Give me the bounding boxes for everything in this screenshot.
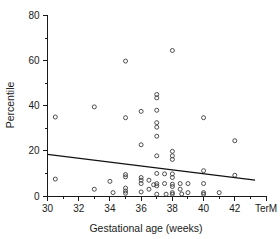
- plot-canvas: 30323436384042TerM020406080 Gestational …: [0, 0, 280, 239]
- data-point: [92, 105, 96, 109]
- major-tick-group: [43, 16, 267, 202]
- data-point: [147, 187, 151, 191]
- data-point: [111, 191, 115, 195]
- x-tick-label: 38: [167, 203, 179, 214]
- data-point: [53, 177, 57, 181]
- data-point: [155, 125, 159, 129]
- minor-tick-group: [45, 38, 251, 199]
- y-tick-label: 40: [28, 100, 40, 111]
- y-tick-label: 20: [28, 145, 40, 156]
- data-point: [233, 173, 237, 177]
- x-tick-label: 34: [104, 203, 116, 214]
- x-tick-label: 30: [42, 203, 54, 214]
- y-axis-title: Percentile: [4, 82, 16, 129]
- data-point: [178, 182, 182, 186]
- y-tick-label: 0: [34, 191, 40, 202]
- data-point: [170, 48, 174, 52]
- data-point: [155, 154, 159, 158]
- data-point: [202, 182, 206, 186]
- data-point: [170, 149, 174, 153]
- data-point: [186, 182, 190, 186]
- data-point: [202, 116, 206, 120]
- data-point: [163, 172, 167, 176]
- data-point: [163, 182, 167, 186]
- x-tick-label: 36: [136, 203, 148, 214]
- data-point: [139, 109, 143, 113]
- data-point: [53, 115, 57, 119]
- data-point: [124, 116, 128, 120]
- data-point: [92, 187, 96, 191]
- x-tick-label: 32: [73, 203, 85, 214]
- data-point: [178, 187, 182, 191]
- scatter-plot-figure: 30323436384042TerM020406080 Gestational …: [0, 0, 280, 239]
- data-point: [155, 108, 159, 112]
- y-tick-label: 80: [28, 10, 40, 21]
- data-point: [155, 134, 159, 138]
- data-point: [155, 171, 159, 175]
- data-point: [124, 59, 128, 63]
- data-point: [147, 178, 151, 182]
- regression-trend-line: [48, 154, 256, 180]
- y-tick-label: 60: [28, 55, 40, 66]
- data-point: [217, 191, 221, 195]
- x-tick-label: 42: [229, 203, 241, 214]
- x-tick-label: 40: [198, 203, 210, 214]
- data-point: [139, 143, 143, 147]
- data-point: [155, 121, 159, 125]
- x-tick-label: TerM: [255, 203, 277, 214]
- data-point: [108, 179, 112, 183]
- x-axis-title: Gestational age (weeks): [89, 222, 202, 234]
- data-point: [186, 191, 190, 195]
- data-point: [139, 190, 143, 194]
- data-point: [180, 192, 184, 196]
- data-point: [202, 169, 206, 173]
- data-point: [233, 139, 237, 143]
